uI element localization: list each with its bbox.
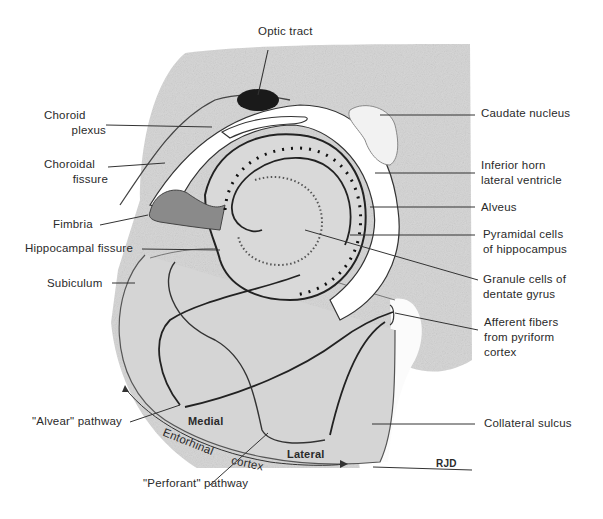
label-line: Granule cells of [483,272,566,287]
label-alvear-pathway: "Alvear" pathway [32,414,122,429]
label-line: Choroid [44,108,106,123]
hippocampus-diagram [0,0,603,519]
optic-tract [237,89,279,111]
label-perforant-pathway: "Perforant" pathway [143,476,248,491]
label-granule-cells: Granule cells of dentate gyrus [483,272,566,302]
label-medial: Medial [188,414,223,429]
label-afferent-fibers: Afferent fibers from pyriform cortex [484,315,558,360]
signature: RJD [436,456,457,471]
label-line: dentate gyrus [483,287,566,302]
label-line: Inferior horn [481,158,562,173]
label-subiculum: Subiculum [47,276,103,291]
label-optic-tract: Optic tract [258,24,313,39]
label-line: from pyriform [484,330,558,345]
label-alveus: Alveus [481,200,517,215]
label-fimbria: Fimbria [53,217,93,232]
label-line: fissure [44,172,108,187]
label-caudate-nucleus: Caudate nucleus [481,106,570,121]
label-line: cortex [484,345,558,360]
label-line: Afferent fibers [484,315,558,330]
label-collateral-sulcus: Collateral sulcus [484,416,572,431]
label-lateral: Lateral [287,447,324,462]
label-inferior-horn: Inferior horn lateral ventricle [481,158,562,188]
label-line: of hippocampus [483,242,567,257]
label-line: plexus [44,123,106,138]
label-pyramidal-cells: Pyramidal cells of hippocampus [483,227,567,257]
label-line: Choroidal [44,157,108,172]
label-choroid-plexus: Choroid plexus [44,108,106,138]
label-choroidal-fissure: Choroidal fissure [44,157,108,187]
label-hippocampal-fissure: Hippocampal fissure [25,241,133,256]
label-line: lateral ventricle [481,173,562,188]
label-line: Pyramidal cells [483,227,567,242]
